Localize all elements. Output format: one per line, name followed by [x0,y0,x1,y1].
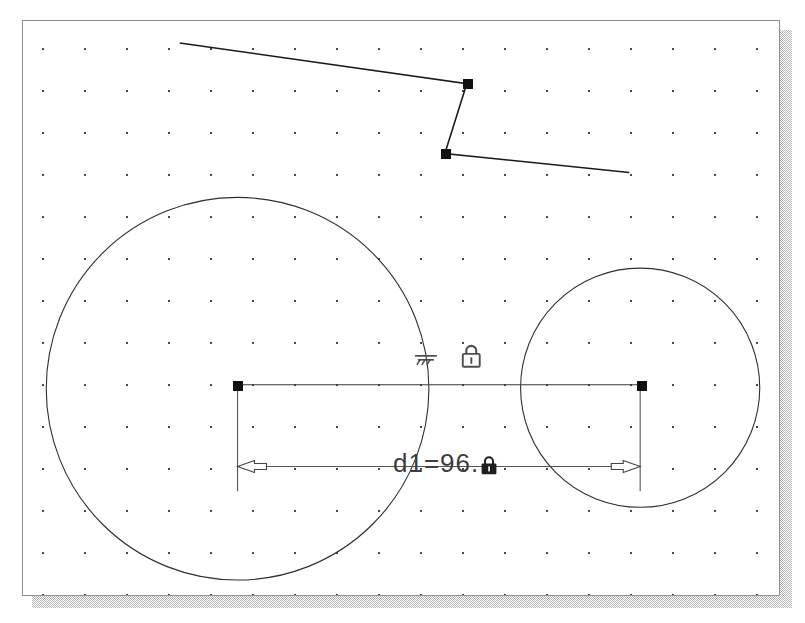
polyline-vertex-1[interactable] [463,79,473,89]
dimension-arrow-left [238,460,267,472]
dimension-label[interactable]: d1=96. [393,450,498,476]
center-handle-right[interactable] [637,381,647,391]
sketch-window[interactable]: d1=96. [22,20,780,596]
padlock-filled-icon[interactable] [480,453,498,473]
dimension-label-text: d1=96. [393,448,479,478]
center-handle-left[interactable] [233,381,243,391]
geometry-layer[interactable] [23,21,779,595]
polyline-vertex-2[interactable] [441,149,451,159]
screen-root: d1=96. [0,0,805,623]
open-polyline[interactable] [180,43,629,173]
padlock-icon[interactable] [463,346,480,367]
dimension-arrow-right [611,460,640,472]
